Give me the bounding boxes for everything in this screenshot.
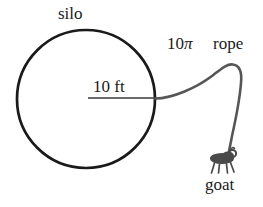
rope-length-value: 10 <box>167 34 184 53</box>
pi-symbol: π <box>184 34 193 53</box>
silo-label: silo <box>58 5 83 22</box>
rope-length-label: 10π <box>167 35 193 52</box>
silo-circle <box>17 30 155 168</box>
rope-label: rope <box>213 35 243 52</box>
rope-curve <box>156 64 242 152</box>
goat-figure <box>210 148 236 173</box>
goat-label: goat <box>205 176 234 193</box>
goat-silo-diagram: silo 10π rope 10 ft goat <box>0 0 263 207</box>
radius-label: 10 ft <box>93 78 125 95</box>
